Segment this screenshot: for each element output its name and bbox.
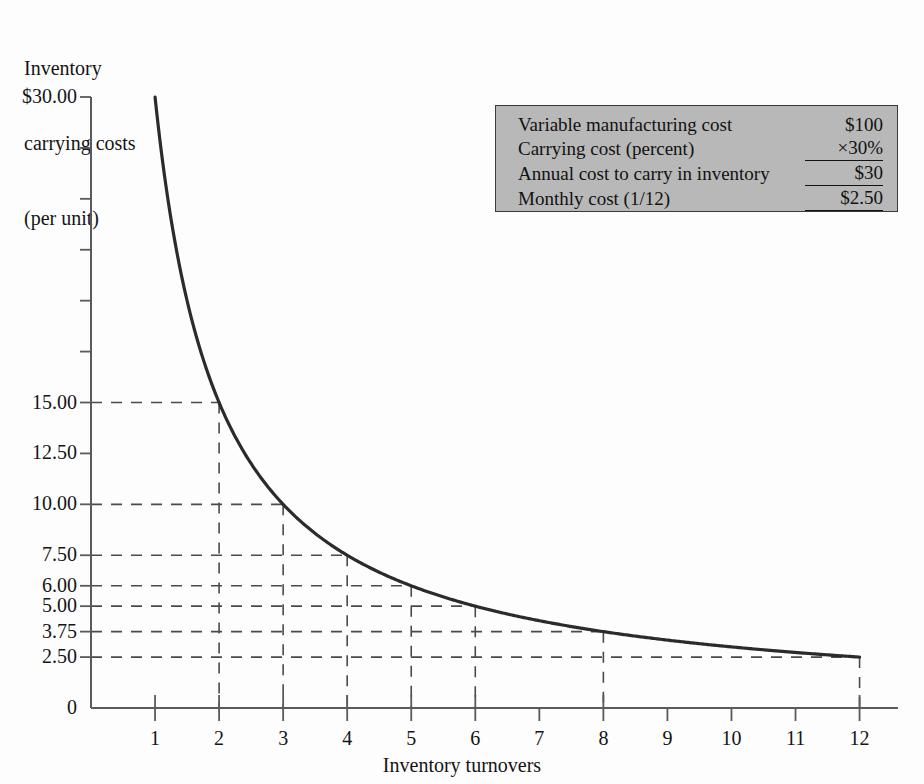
- x-tick-label: 10: [711, 728, 751, 748]
- y-tick-label: 2.50: [0, 646, 77, 666]
- inventory-carrying-cost-chart: Inventory carrying costs (per unit) $30.…: [0, 0, 924, 784]
- x-tick-label: 12: [840, 728, 880, 748]
- x-tick-label: 1: [135, 728, 175, 748]
- carrying-cost-row-label: Variable manufacturing cost: [518, 113, 787, 136]
- x-tick-label: 6: [455, 728, 495, 748]
- y-tick-label: 12.50: [0, 442, 77, 462]
- carrying-cost-row: Carrying cost (percent)×30%: [518, 136, 883, 161]
- y-tick-label: 3.75: [0, 621, 77, 641]
- carrying-cost-row-value: ×30%: [787, 136, 883, 161]
- carrying-cost-row-label: Annual cost to carry in inventory: [518, 161, 787, 186]
- carrying-cost-calculation-box: Variable manufacturing cost$100Carrying …: [495, 105, 898, 212]
- carrying-cost-row-value-text: $100: [805, 113, 883, 136]
- x-tick-label: 9: [647, 728, 687, 748]
- carrying-cost-row: Annual cost to carry in inventory$30: [518, 161, 883, 186]
- x-axis-title: Inventory turnovers: [0, 754, 924, 777]
- carrying-cost-row-value: $100: [787, 113, 883, 136]
- y-tick-label: 5.00: [0, 595, 77, 615]
- x-tick-label: 11: [776, 728, 816, 748]
- carrying-cost-row-value-text: ×30%: [805, 136, 883, 161]
- x-tick-label: 4: [327, 728, 367, 748]
- carrying-cost-row: Monthly cost (1/12)$2.50: [518, 186, 883, 211]
- y-tick-label: 0: [0, 697, 77, 717]
- carrying-cost-table: Variable manufacturing cost$100Carrying …: [518, 113, 883, 211]
- carrying-cost-row-value: $2.50: [787, 186, 883, 211]
- y-tick-label: $30.00: [0, 86, 77, 106]
- x-tick-label: 8: [583, 728, 623, 748]
- carrying-cost-row: Variable manufacturing cost$100: [518, 113, 883, 136]
- y-tick-label: 10.00: [0, 493, 77, 513]
- x-tick-label: 3: [263, 728, 303, 748]
- x-tick-label: 5: [391, 728, 431, 748]
- guide-lines-layer: [91, 403, 860, 709]
- x-tick-label: 7: [519, 728, 559, 748]
- x-tick-label: 2: [199, 728, 239, 748]
- y-tick-label: 7.50: [0, 544, 77, 564]
- carrying-cost-row-value: $30: [787, 161, 883, 186]
- y-tick-label: 6.00: [0, 575, 77, 595]
- carrying-cost-row-value-text: $30: [805, 161, 883, 186]
- carrying-cost-row-value-text: $2.50: [805, 186, 883, 211]
- carrying-cost-row-label: Carrying cost (percent): [518, 136, 787, 161]
- carrying-cost-row-label: Monthly cost (1/12): [518, 186, 787, 211]
- y-tick-label: 15.00: [0, 392, 77, 412]
